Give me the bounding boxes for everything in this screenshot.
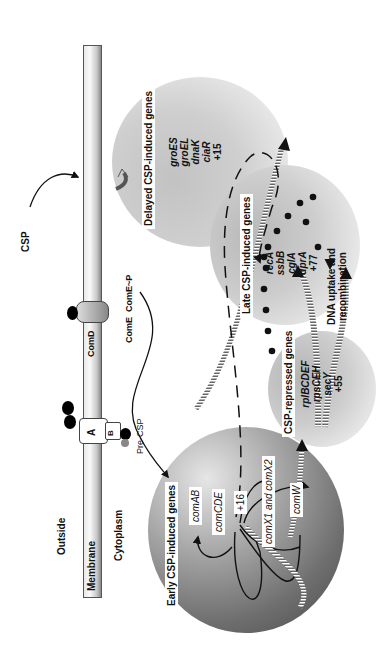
come-p-label: ComE~P (124, 275, 134, 312)
gene-comcde: comCDE (212, 489, 225, 535)
gene-rpsceh: rpsCEH (311, 354, 322, 414)
outside-label: Outside (56, 518, 67, 555)
comd-receptor (76, 301, 109, 323)
transporter-a-label: A (86, 429, 97, 436)
gene-dnak: dnaK (190, 127, 201, 177)
late-genes-title: Late CSP-induced genes (240, 194, 253, 317)
diagram-canvas: Membrane Outside Cytoplasm A B Pre-CSP C… (0, 0, 382, 647)
pre-csp-label: Pre-CSP (135, 418, 145, 454)
membrane-label: Membrane (86, 541, 97, 591)
gene-count-late: +77 (308, 243, 319, 283)
gene-comx: comX1 and comX2 (262, 457, 275, 548)
cytoplasm-label: Cytoplasm (113, 510, 124, 561)
csp-molecule (62, 401, 74, 415)
gene-comab: comAB (189, 487, 202, 525)
gene-dpra: dprA (297, 243, 308, 283)
dna-uptake-line1: DNA uptake and (326, 248, 337, 325)
dna-uptake-label: DNA uptake and recombination (326, 248, 348, 325)
gene-count-early: +16 (234, 491, 247, 514)
come-label: ComE (124, 317, 134, 343)
gene-ciar: ciaR (201, 127, 212, 177)
gene-groel: groEL (179, 127, 190, 177)
repressed-genes-list: rplBCDEF rpsCEH secY +55 (300, 354, 344, 414)
csp-bound (67, 306, 78, 320)
csp-molecule (64, 415, 76, 429)
gene-reca: recA (264, 243, 275, 283)
delayed-genes-title: Delayed CSP-induced genes (142, 88, 155, 229)
early-genes-title: Early CSP-induced genes (165, 482, 178, 609)
transporter-b-label: B (106, 430, 115, 436)
gene-groes: groES (168, 127, 179, 177)
gene-count-repressed: +55 (333, 354, 344, 414)
late-genes-list: recA ssbB cglA dprA +77 (264, 243, 319, 283)
gene-comw: comW (290, 483, 303, 517)
gene-cgla: cglA (286, 243, 297, 283)
delayed-genes-list: groES groEL dnaK ciaR +15 (168, 127, 223, 177)
comd-label: ComD (86, 331, 96, 358)
dna-uptake-line2: recombination (337, 248, 348, 325)
pre-csp-leader (121, 439, 129, 447)
csp-arrow (30, 174, 78, 207)
gene-ssbb: ssbB (275, 243, 286, 283)
csp-label: CSP (20, 231, 31, 252)
gene-rplbcdef: rplBCDEF (300, 354, 311, 414)
gene-secy: secY (322, 354, 333, 414)
gene-count-delayed: +15 (212, 127, 223, 177)
repressed-genes-title: CSP-repressed genes (282, 328, 295, 437)
